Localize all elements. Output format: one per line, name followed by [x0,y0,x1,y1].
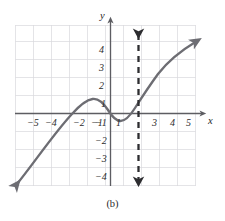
figure-panel: −5 −4 −2 −1 1 3 4 5 4 3 2 1 −1 −2 −3 −4 … [0,0,225,221]
y-tick-label: −1 [95,118,107,128]
y-tick-label: −3 [95,154,107,164]
function-curve [17,41,197,184]
x-tick-label: 4 [170,118,175,128]
x-tick-label: −4 [45,118,57,128]
x-tick-label: −2 [73,118,85,128]
x-tick-label: −5 [27,118,39,128]
coordinate-plane-graph [0,0,225,221]
figure-caption: (b) [0,199,225,210]
y-axis-label: y [100,11,105,22]
x-tick-label: 3 [152,118,157,128]
y-tick-label: −4 [95,172,107,182]
x-tick-label: 1 [116,118,121,128]
x-tick-label: 5 [186,118,191,128]
y-tick-label: 4 [99,45,104,55]
y-tick-label: 3 [99,63,104,73]
y-tick-label: 2 [99,81,104,91]
y-tick-label: −2 [95,136,107,146]
y-tick-label: 1 [101,99,106,109]
x-axis-label: x [208,116,213,127]
